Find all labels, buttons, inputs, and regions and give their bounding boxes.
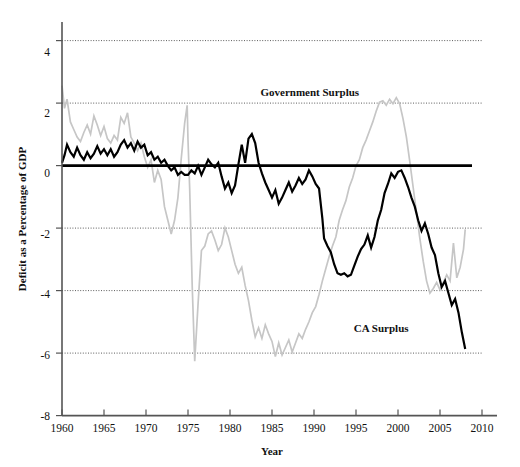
x-tick-label-2000: 2000 [387,422,410,434]
deficit-gdp-line-chart: 420-2-4-6-8 1960196519701975198019851990… [0,0,520,467]
x-tick-label-1995: 1995 [345,422,368,434]
x-tick-label-2005: 2005 [429,422,452,434]
x-tick-label-1985: 1985 [261,422,284,434]
y-tick-label--2: -2 [40,228,50,240]
y-tick-label--6: -6 [40,349,50,361]
x-axis-label: Year [261,445,283,457]
y-tick-label-4: 4 [44,46,50,58]
x-tick-label-1990: 1990 [303,422,326,434]
x-tick-label-1960: 1960 [51,422,74,434]
annotation-government-surplus: Government Surplus [260,86,359,98]
chart-screenshot: 420-2-4-6-8 1960196519701975198019851990… [0,0,520,467]
x-tick-label-1975: 1975 [177,422,200,434]
x-tick-label-2010: 2010 [471,422,494,434]
annotation-ca-surplus: CA Surplus [354,322,409,334]
y-axis-label: Deficit as a Percentage of GDP [16,147,28,292]
x-tick-label-1965: 1965 [93,422,116,434]
y-tick-label-2: 2 [44,107,50,119]
x-tick-label-1970: 1970 [135,422,158,434]
x-tick-label-1980: 1980 [219,422,242,434]
y-tick-label--4: -4 [40,288,50,300]
y-tick-label--8: -8 [40,410,50,422]
y-tick-label-0: 0 [44,167,50,179]
chart-background [0,0,520,467]
